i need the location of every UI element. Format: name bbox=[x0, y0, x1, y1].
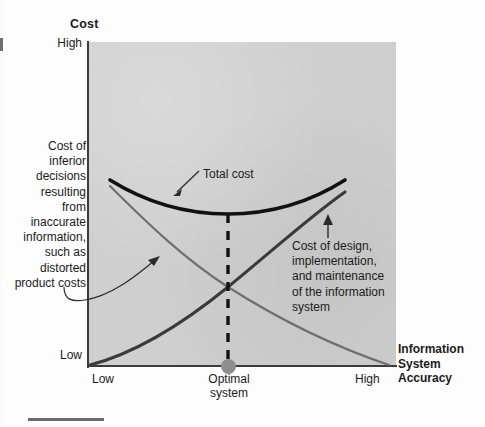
annotation-inferior-decisions: Cost of inferior decisions resulting fro… bbox=[14, 139, 86, 291]
y-axis-title: Cost bbox=[70, 17, 99, 31]
annotation-system-cost: Cost of design, implementation, and main… bbox=[292, 239, 396, 315]
figure-root: Cost High Low Low Optimal system High In… bbox=[0, 0, 485, 427]
x-axis-title: Information System Accuracy bbox=[398, 342, 484, 386]
leader-total-cost bbox=[173, 171, 199, 196]
x-axis-tick-high: High bbox=[355, 372, 380, 386]
y-axis-tick-high: High bbox=[50, 36, 82, 50]
x-axis-tick-low: Low bbox=[92, 372, 114, 386]
y-axis-tick-low: Low bbox=[50, 348, 82, 362]
curve-total-cost bbox=[110, 180, 345, 214]
leader-right-note bbox=[323, 214, 333, 238]
annotation-total-cost: Total cost bbox=[203, 167, 254, 181]
x-axis-tick-optimal: Optimal system bbox=[190, 372, 268, 400]
